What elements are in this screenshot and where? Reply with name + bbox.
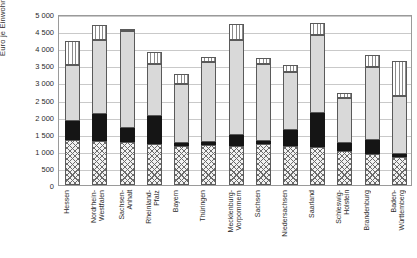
x-axis-tick-label: Rheinland- Pfalz [145,190,161,224]
x-axis-tick-label: Hessen [63,190,71,214]
x-axis-tick-label: Baden- Württemberg [390,190,406,230]
x-axis-tick-label: Niedersachsen [281,190,289,237]
x-axis-tick-label: Nordrhein- Westfalen [90,190,106,223]
x-axis-tick-label: Schleswig- Holstein [335,190,351,224]
x-axis-tick-label: Thüringen [199,190,207,222]
x-axis-tick-label: Saarland [308,190,316,218]
x-axis-tick-labels: HessenNordrhein- WestfalenSachsen- Anhal… [0,0,417,258]
x-axis-tick-label: Brandenburg [363,190,371,230]
x-axis-tick-label: Mecklenburg- Vorpommern [227,190,243,232]
x-axis-tick-label: Sachsen [254,190,262,217]
stacked-bar-chart: Euro je Einwohner 05001 0001 5002 0002 5… [0,0,417,258]
x-axis-tick-label: Sachsen- Anhalt [118,190,134,220]
x-axis-tick-label: Bayern [172,190,180,212]
